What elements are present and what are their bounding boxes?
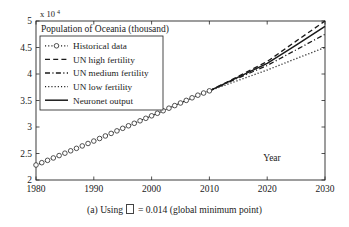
- y-axis-exponent-base: x 10: [40, 9, 57, 19]
- x-tick-label: 1990: [84, 184, 103, 194]
- x-axis-label: Year: [263, 153, 281, 163]
- historical-data-point: [34, 163, 39, 168]
- historical-data-point: [86, 141, 91, 146]
- historical-data-point: [178, 101, 183, 106]
- historical-data-point: [184, 98, 189, 103]
- x-axis-tick-labels: 198019902000201020202030: [27, 184, 335, 194]
- y-axis-exponent-label: x 10 4: [40, 9, 60, 19]
- y-axis-tick-labels: 22.533.544.55: [20, 16, 32, 185]
- caption-missing-glyph-icon: [126, 204, 134, 214]
- historical-data-point: [138, 119, 143, 124]
- historical-data-point: [144, 116, 149, 121]
- historical-data-point: [39, 160, 44, 165]
- historical-data-point: [167, 106, 172, 111]
- legend-marker-historical-data: [54, 44, 59, 49]
- y-tick-label: 3: [27, 122, 32, 132]
- figure-caption: (a) Using = 0.014 (global minimum point): [0, 204, 349, 215]
- historical-data-point: [207, 89, 212, 94]
- legend-label-neuronet-output: Neuronet output: [73, 96, 133, 106]
- series-un-high-fertility-line: [209, 21, 325, 91]
- figure-container: 198019902000201020202030 22.533.544.55 x…: [0, 0, 349, 227]
- historical-data-point: [51, 156, 56, 161]
- y-tick-label: 4.5: [20, 43, 32, 53]
- historical-data-point: [115, 129, 120, 134]
- historical-data-point: [74, 146, 79, 151]
- historical-data-point: [149, 114, 154, 119]
- caption-suffix: = 0.014 (global minimum point): [138, 204, 262, 215]
- legend-label-un-low-fertility: UN low fertility: [73, 82, 133, 92]
- x-tick-label: 2030: [316, 184, 335, 194]
- y-tick-label: 5: [27, 16, 32, 26]
- y-tick-label: 2.5: [20, 149, 32, 159]
- historical-data-point: [132, 121, 137, 126]
- caption-prefix: (a) Using: [87, 204, 123, 215]
- historical-data-point: [97, 136, 102, 141]
- historical-data-point: [92, 139, 97, 144]
- historical-data-point: [57, 153, 62, 158]
- legend-label-historical-data: Historical data: [73, 41, 127, 51]
- historical-data-point: [68, 149, 73, 154]
- historical-data-point: [45, 158, 50, 163]
- x-tick-label: 2000: [142, 184, 161, 194]
- historical-data-point: [201, 91, 206, 96]
- historical-data-point: [80, 144, 85, 149]
- historical-data-point: [196, 93, 201, 98]
- legend-label-un-medium-fertility: UN medium fertility: [73, 68, 149, 78]
- chart-canvas: 198019902000201020202030 22.533.544.55 x…: [0, 0, 349, 227]
- y-tick-label: 4: [27, 69, 32, 79]
- historical-data-point: [126, 123, 131, 128]
- x-tick-label: 2010: [200, 184, 219, 194]
- historical-data-point: [155, 111, 160, 116]
- series-neuronet-output-line: [209, 26, 325, 91]
- y-axis-exponent-power: 4: [57, 9, 60, 15]
- y-tick-label: 3.5: [20, 96, 32, 106]
- historical-data-point: [109, 131, 114, 136]
- chart-legend: Historical dataUN high fertilityUN mediu…: [40, 36, 163, 110]
- historical-data-point: [190, 96, 195, 101]
- legend-label-un-high-fertility: UN high fertility: [73, 55, 135, 65]
- x-tick-label: 2020: [258, 184, 277, 194]
- historical-data-point: [103, 134, 108, 139]
- historical-data-point: [120, 126, 125, 131]
- y-tick-label: 2: [27, 175, 32, 185]
- chart-title: Population of Oceania (thousand): [41, 24, 169, 35]
- historical-data-point: [63, 151, 68, 156]
- historical-data-point: [172, 103, 177, 108]
- series-un-low-fertility-line: [209, 48, 325, 91]
- x-tick-label: 1980: [27, 184, 46, 194]
